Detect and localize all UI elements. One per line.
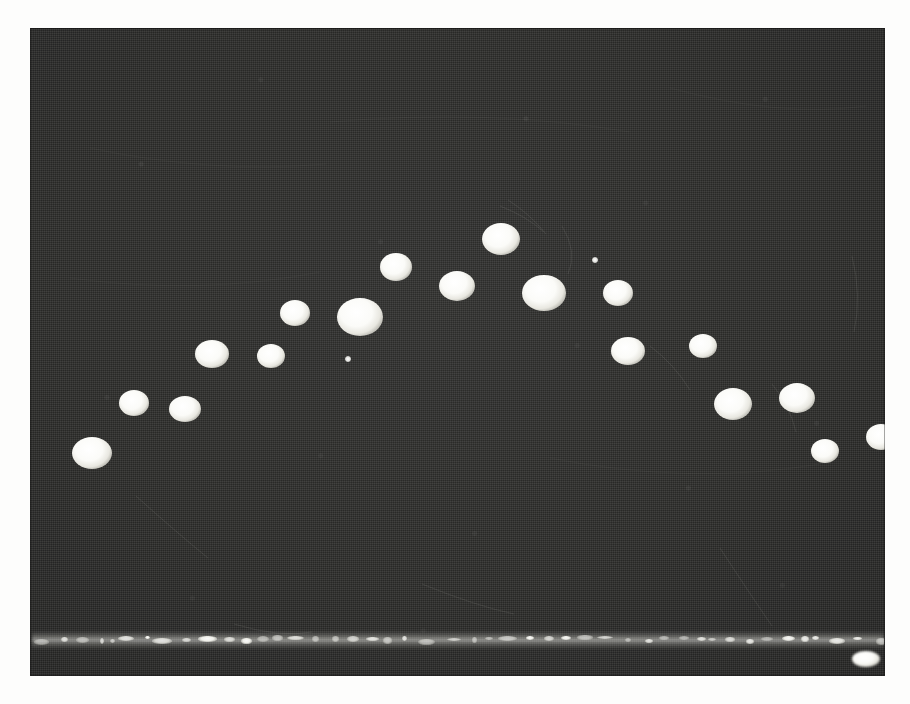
luminous-spot (852, 651, 880, 667)
baseline-dash (383, 637, 392, 643)
baseline-dash (61, 637, 68, 643)
baseline-dash (402, 636, 407, 641)
baseline-dash (853, 637, 862, 640)
luminous-spot (482, 223, 520, 255)
baseline-dash (272, 635, 283, 641)
photographic-plate (30, 28, 885, 676)
baseline-dash (708, 638, 716, 641)
baseline-dash (110, 639, 115, 643)
baseline-dash (485, 637, 493, 640)
stray-speck (345, 356, 351, 362)
baseline-dash (761, 637, 773, 641)
baseline-dash (526, 636, 534, 640)
luminous-spot (72, 437, 112, 469)
baseline-dash (100, 638, 104, 644)
baseline-dash (198, 636, 217, 642)
baseline-dash (544, 636, 554, 642)
luminous-spot (169, 396, 201, 422)
luminous-spot (195, 340, 229, 368)
baseline-dash (697, 637, 706, 641)
luminous-spot (714, 388, 752, 420)
baseline-dash (679, 636, 689, 640)
baseline-dash (801, 636, 809, 642)
luminous-spot (257, 344, 285, 368)
baseline-dash (118, 636, 135, 641)
baseline-dash (287, 636, 304, 641)
baseline-dash (257, 636, 269, 643)
baseline-dash (472, 637, 477, 643)
baseline-dash (241, 638, 252, 644)
baseline-dash (812, 636, 819, 640)
baseline-dashes (32, 633, 884, 648)
baseline-dash (725, 637, 735, 642)
baseline-dash (645, 639, 653, 643)
luminous-spot (603, 280, 633, 306)
luminous-spot (337, 298, 383, 336)
baseline-dash (224, 637, 235, 642)
baseline-dash (659, 636, 668, 640)
baseline-dash (152, 638, 172, 644)
luminous-spot (439, 271, 475, 301)
baseline-dash (418, 639, 435, 645)
baseline-dash (332, 636, 339, 641)
baseline-dash (577, 635, 592, 639)
luminous-spot (689, 334, 717, 358)
baseline-dash (876, 638, 884, 644)
baseline-dash (498, 636, 516, 641)
luminous-spot (522, 275, 566, 311)
luminous-spot (119, 390, 149, 416)
baseline-dash (182, 638, 191, 643)
figure-root (0, 0, 910, 704)
baseline-dash (782, 636, 795, 641)
baseline-dash (829, 638, 845, 643)
baseline-dash (145, 636, 150, 640)
halftone-texture (30, 28, 885, 676)
baseline-dash (561, 636, 570, 640)
baseline-dash (76, 637, 89, 643)
luminous-spot (280, 300, 310, 326)
baseline-dash (347, 636, 359, 642)
baseline-dash (746, 639, 754, 644)
baseline-dash (34, 639, 49, 645)
luminous-spot (380, 253, 412, 281)
baseline-dash (597, 636, 613, 639)
baseline-dash (447, 638, 461, 641)
luminous-spot (611, 337, 645, 365)
baseline-dash (625, 638, 631, 642)
luminous-spot (811, 439, 839, 463)
baseline-dash (366, 637, 378, 641)
baseline-dash (312, 636, 319, 642)
stray-speck (592, 257, 598, 263)
luminous-spot (779, 383, 815, 413)
